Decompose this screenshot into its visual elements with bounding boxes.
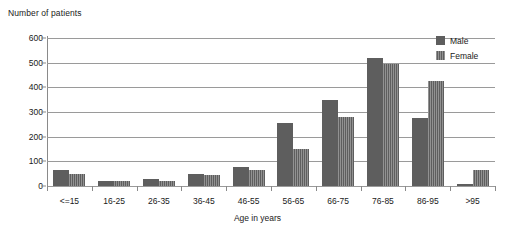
bar-male — [98, 181, 114, 186]
x-tick-mark — [226, 186, 227, 191]
bar-group — [226, 38, 271, 186]
x-tick-mark — [92, 186, 93, 191]
bar-female — [338, 117, 354, 186]
y-tick-label: 200 — [9, 132, 43, 142]
legend-label: Female — [450, 51, 478, 61]
x-tick-mark — [361, 186, 362, 191]
legend-swatch-icon — [436, 36, 445, 45]
bar-group — [47, 38, 92, 186]
bar-group — [92, 38, 137, 186]
x-tick-label: 56-65 — [271, 196, 316, 206]
y-tick-mark — [41, 161, 46, 162]
x-tick-mark — [47, 186, 48, 191]
bar-male — [457, 184, 473, 186]
y-tick-mark — [41, 136, 46, 137]
bar-group — [181, 38, 226, 186]
x-tick-label: 36-45 — [181, 196, 226, 206]
chart-legend: MaleFemale — [436, 33, 478, 63]
x-tick-label: 26-35 — [137, 196, 182, 206]
y-tick-mark — [41, 62, 46, 63]
bar-group — [137, 38, 182, 186]
y-tick-label: 400 — [9, 82, 43, 92]
y-tick-mark — [41, 38, 46, 39]
y-tick-label: 600 — [9, 33, 43, 43]
x-tick-mark — [181, 186, 182, 191]
x-tick-label: >95 — [450, 196, 495, 206]
bar-male — [233, 167, 249, 186]
bar-male — [188, 174, 204, 186]
x-tick-mark — [405, 186, 406, 191]
bar-group — [316, 38, 361, 186]
bar-female — [383, 64, 399, 186]
bar-chart: Number of patients 6005004003002001000 A… — [0, 0, 515, 236]
bar-female — [204, 175, 220, 186]
bar-male — [277, 123, 293, 186]
x-tick-label: 86-95 — [405, 196, 450, 206]
bar-female — [428, 81, 444, 186]
x-tick-mark — [450, 186, 451, 191]
bar-male — [322, 100, 338, 186]
y-axis-ticks: 6005004003002001000 — [0, 0, 43, 236]
legend-item-male: Male — [436, 33, 478, 48]
bar-female — [473, 170, 489, 186]
bar-group — [361, 38, 406, 186]
y-tick-mark — [41, 87, 46, 88]
bar-male — [53, 170, 69, 186]
legend-swatch-icon — [436, 51, 445, 60]
x-tick-mark — [316, 186, 317, 191]
legend-label: Male — [450, 36, 468, 46]
x-tick-label: 76-85 — [361, 196, 406, 206]
x-tick-mark — [495, 186, 496, 191]
y-tick-mark — [41, 186, 46, 187]
x-tick-mark — [271, 186, 272, 191]
y-tick-label: 100 — [9, 156, 43, 166]
bar-male — [143, 179, 159, 186]
y-tick-label: 500 — [9, 58, 43, 68]
y-tick-mark — [41, 112, 46, 113]
bar-group — [271, 38, 316, 186]
bar-female — [159, 181, 175, 186]
bar-female — [249, 170, 265, 186]
bar-female — [69, 174, 85, 186]
legend-item-female: Female — [436, 48, 478, 63]
bar-male — [412, 118, 428, 186]
bar-female — [114, 181, 130, 186]
x-tick-label: 16-25 — [92, 196, 137, 206]
bar-female — [293, 149, 309, 186]
x-tick-mark — [137, 186, 138, 191]
x-tick-label: 66-75 — [316, 196, 361, 206]
x-axis-title: Age in years — [0, 213, 515, 223]
plot-area — [47, 38, 495, 186]
y-tick-label: 300 — [9, 107, 43, 117]
x-tick-label: 46-55 — [226, 196, 271, 206]
y-tick-label: 0 — [9, 181, 43, 191]
x-tick-label: <=15 — [47, 196, 92, 206]
bar-male — [367, 58, 383, 186]
